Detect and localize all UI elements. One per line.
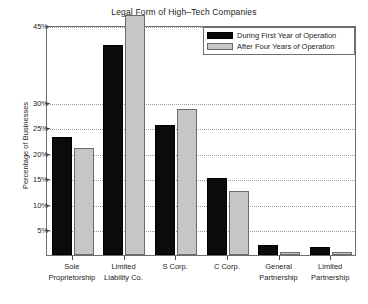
y-axis-tick-label: 45% (14, 22, 48, 31)
x-axis-tick-label-line: Limited (282, 262, 368, 273)
bar (280, 252, 300, 255)
black-swatch (207, 32, 233, 39)
bar (310, 247, 330, 255)
x-axis-tick-mark (72, 256, 73, 260)
x-axis-tick-label: LimitedPartnership (282, 262, 368, 283)
y-axis-tick-label: 5% (14, 226, 48, 235)
bar-group (254, 27, 306, 255)
y-axis-tick-label: 10% (14, 200, 48, 209)
bar-group (47, 27, 99, 255)
chart-title: Legal Form of High–Tech Companies (0, 7, 368, 17)
legend-item: After Four Years of Operation (207, 41, 351, 52)
gray-swatch (207, 43, 233, 50)
x-axis-tick-label-line: Liability Co. (76, 273, 172, 284)
legend-item-label: After Four Years of Operation (237, 42, 335, 51)
x-axis-tick-label-line: Partnership (282, 273, 368, 284)
bar (207, 178, 227, 255)
y-axis-tick-label: 25% (14, 124, 48, 133)
y-axis-tick-label: 15% (14, 175, 48, 184)
x-axis-tick-mark (279, 256, 280, 260)
x-axis-tick-mark (227, 256, 228, 260)
y-axis-tick-label: 20% (14, 149, 48, 158)
bar-group (305, 27, 357, 255)
legend-item-label: During First Year of Operation (237, 31, 336, 40)
bar (103, 45, 123, 255)
bar (74, 148, 94, 255)
bar (125, 15, 145, 255)
plot-area (46, 26, 356, 256)
bar-group (150, 27, 202, 255)
y-axis-label: Percentage of Businesses (21, 71, 30, 221)
x-axis-tick-mark (175, 256, 176, 260)
legend-item: During First Year of Operation (207, 30, 351, 41)
bar (177, 109, 197, 255)
bar (155, 125, 175, 255)
bar-group (99, 27, 151, 255)
chart-legend: During First Year of OperationAfter Four… (203, 27, 355, 55)
bar (229, 191, 249, 255)
bar (52, 137, 72, 255)
x-axis-tick-mark (330, 256, 331, 260)
x-axis-tick-mark (124, 256, 125, 260)
y-axis-tick-label: 30% (14, 98, 48, 107)
bar (332, 252, 352, 255)
chart-figure: Legal Form of High–Tech Companies Percen… (0, 0, 368, 304)
bar-group (202, 27, 254, 255)
bar (258, 245, 278, 255)
